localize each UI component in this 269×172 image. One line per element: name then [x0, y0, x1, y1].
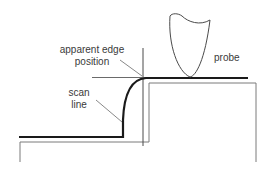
- label-probe: probe: [214, 52, 240, 64]
- label-apparent-edge: apparent edge position: [48, 44, 136, 68]
- edge-probe-diagram: apparent edge position probe scan line: [0, 0, 269, 172]
- sample-outline: [20, 83, 256, 162]
- label-apparent-edge-line1: apparent edge: [48, 44, 136, 56]
- diagram-canvas: [0, 0, 269, 172]
- scan-line: [19, 78, 248, 137]
- label-apparent-edge-line2: position: [48, 56, 136, 68]
- leader-scan-line: [96, 100, 122, 122]
- label-scan-line-line2: line: [64, 99, 94, 111]
- probe-shape: [170, 14, 210, 77]
- label-scan-line-line1: scan: [64, 87, 94, 99]
- label-scan-line: scan line: [64, 87, 94, 111]
